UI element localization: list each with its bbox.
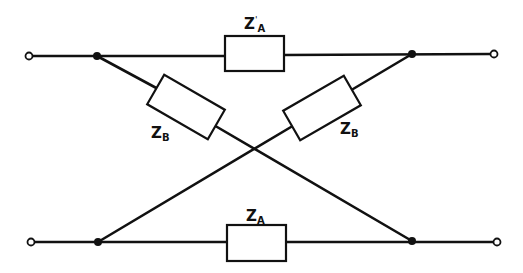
za-top-impedance-box bbox=[225, 36, 284, 71]
top-wire-right bbox=[284, 54, 491, 55]
za-top-label: Z'A bbox=[244, 16, 265, 34]
za-bottom-label: ZA bbox=[246, 209, 265, 226]
junction-bottom-right bbox=[408, 237, 416, 245]
diagonal-right-upper-wire bbox=[348, 54, 412, 92]
za-top-label-main: Z bbox=[244, 15, 255, 33]
diagonal-left-upper-wire bbox=[97, 56, 160, 90]
zb-right-label-main: Z bbox=[340, 120, 351, 138]
zb-left-label-main: Z bbox=[151, 124, 162, 142]
terminal-input-bottom bbox=[28, 239, 35, 246]
za-bottom-label-sub: A bbox=[257, 215, 265, 226]
junction-top-right bbox=[408, 50, 416, 58]
za-bottom-impedance-box bbox=[227, 225, 286, 261]
diagonal-left-lower-wire bbox=[212, 124, 412, 241]
zb-left-label: ZB bbox=[151, 126, 170, 143]
junction-bottom-left bbox=[94, 238, 102, 246]
za-top-label-sub: A bbox=[257, 23, 265, 34]
terminal-output-bottom bbox=[494, 239, 501, 246]
junction-top-left bbox=[93, 52, 101, 60]
terminal-input-top bbox=[26, 53, 33, 60]
za-bottom-label-main: Z bbox=[246, 207, 257, 225]
zb-right-label: ZB bbox=[340, 122, 359, 139]
terminal-output-top bbox=[491, 51, 498, 58]
lattice-network-diagram bbox=[0, 0, 523, 273]
zb-left-label-sub: B bbox=[162, 132, 170, 143]
zb-right-label-sub: B bbox=[351, 128, 359, 139]
